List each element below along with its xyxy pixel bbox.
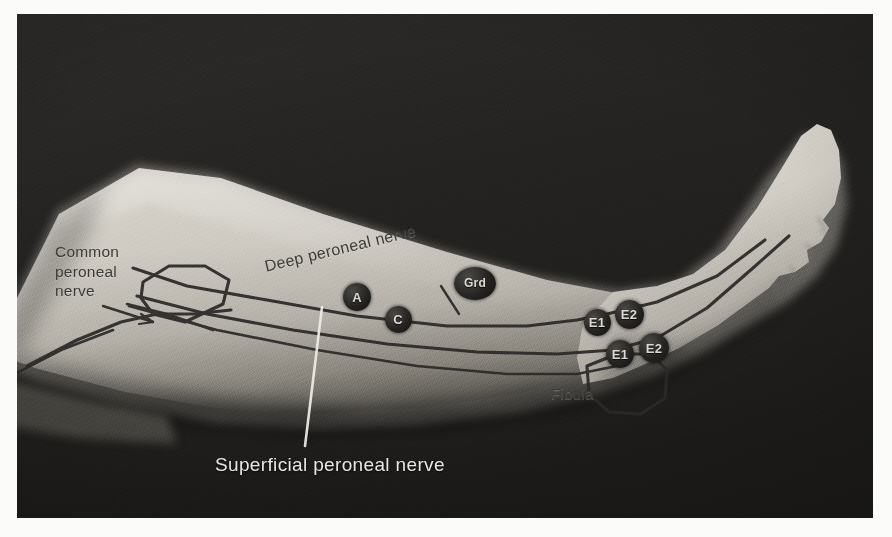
electrode-marker-c: C: [385, 306, 412, 333]
anatomical-photograph: Common peroneal nerve Deep peroneal nerv…: [17, 14, 873, 518]
figure-page: Common peroneal nerve Deep peroneal nerv…: [0, 0, 892, 537]
photo-base-layer: [17, 14, 873, 518]
electrode-marker-e2-lower: E2: [639, 333, 669, 363]
leg-photo-svg: [17, 14, 873, 518]
electrode-marker-grd: Grd: [454, 267, 496, 300]
electrode-marker-e1-upper: E1: [584, 309, 611, 336]
electrode-marker-e2-upper: E2: [615, 300, 644, 329]
electrode-marker-a: A: [343, 283, 371, 311]
electrode-marker-e1-lower: E1: [606, 340, 634, 368]
